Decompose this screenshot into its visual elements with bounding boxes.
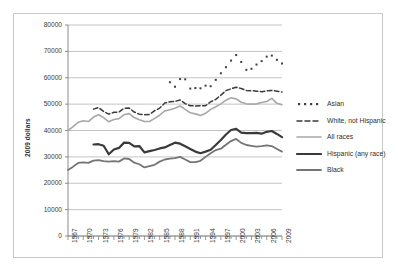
data-point: [215, 79, 217, 81]
x-axis-tick-label: 1967: [71, 228, 78, 243]
x-axis-tick-label: 2006: [270, 228, 277, 243]
data-point: [220, 72, 222, 74]
y-axis-title: 2009 dollars: [24, 118, 31, 157]
y-axis-tick-label: 70000: [14, 47, 62, 54]
data-point: [276, 59, 278, 61]
legend-dot: [316, 103, 318, 105]
y-axis-tick-label: 40000: [14, 127, 62, 134]
legend-item-hispanic-any-race-[interactable]: Hispanic (any race): [327, 150, 386, 157]
y-axis-tick-label: 20000: [14, 179, 62, 186]
legend-item-all-races[interactable]: All races: [327, 133, 353, 140]
data-point: [194, 87, 196, 89]
data-point: [225, 66, 227, 68]
y-axis-tick-label: 50000: [14, 100, 62, 107]
data-point: [250, 68, 252, 70]
data-point: [230, 60, 232, 62]
data-point: [169, 81, 171, 83]
x-axis-tick-label: 1976: [117, 228, 124, 243]
data-point: [205, 85, 207, 87]
legend-marker-dotted-line: [296, 99, 322, 109]
series-asian: [169, 54, 283, 89]
x-axis-tick-label: 2000: [239, 228, 246, 243]
y-axis-tick-label: 10000: [14, 206, 62, 213]
data-point: [240, 61, 242, 63]
data-point: [245, 69, 247, 71]
legend-marker-solid-light-line: [296, 132, 322, 142]
legend-marker-solid-gray-line: [296, 165, 322, 175]
x-axis-tick-label: 1994: [209, 228, 216, 243]
y-axis-tick-label: 80000: [14, 21, 62, 28]
legend-item-white-not-hispanic[interactable]: White, not Hispanic: [327, 117, 386, 124]
data-point: [199, 87, 201, 89]
x-axis-tick-label: 1982: [147, 228, 154, 243]
legend-item-black[interactable]: Black: [327, 166, 344, 173]
chart-figure: 0100002000030000400005000060000700008000…: [0, 0, 398, 276]
legend-marker-solid-dark-thick-line: [296, 149, 322, 159]
data-point: [189, 88, 191, 90]
data-point: [261, 60, 263, 62]
data-point: [174, 86, 176, 88]
data-point: [179, 78, 181, 80]
y-axis-tick-label: 30000: [14, 153, 62, 160]
legend-dot: [298, 103, 300, 105]
x-axis-tick-label: 1991: [193, 228, 200, 243]
legend-dot: [310, 103, 312, 105]
data-point: [271, 55, 273, 57]
series-hispanic-any-race-: [93, 129, 282, 154]
chart-frame: 0100002000030000400005000060000700008000…: [13, 13, 383, 258]
data-point: [184, 78, 186, 80]
x-axis-tick-label: 1970: [86, 228, 93, 243]
legend-marker-dashed-line: [296, 116, 322, 126]
x-axis-tick-label: 1973: [102, 228, 109, 243]
series-all-races: [68, 98, 282, 131]
x-axis-tick-label: 1979: [132, 228, 139, 243]
x-axis-tick-label: 1997: [224, 228, 231, 243]
data-point: [210, 85, 212, 87]
data-point: [281, 63, 283, 65]
legend-item-asian[interactable]: Asian: [327, 100, 344, 107]
data-point: [235, 54, 237, 56]
x-axis-tick-label: 1988: [178, 228, 185, 243]
data-point: [256, 64, 258, 66]
y-axis-tick-label: 60000: [14, 74, 62, 81]
y-axis-tick-label: 0: [14, 232, 62, 239]
legend-dot: [304, 103, 306, 105]
data-point: [266, 56, 268, 58]
x-axis-tick-label: 2003: [254, 228, 261, 243]
x-axis-tick-label: 2009: [285, 228, 292, 243]
x-axis-tick-label: 1985: [163, 228, 170, 243]
